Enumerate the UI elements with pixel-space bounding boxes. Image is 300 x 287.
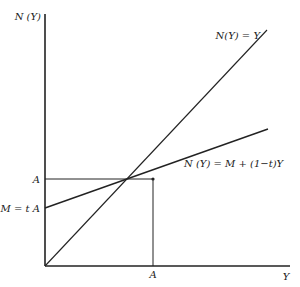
diagram-canvas: N (Y) Y A M = t A A N(Y) = Y N (Y) = M +… [0, 0, 300, 287]
y-tick-m: M = t A [0, 203, 40, 214]
x-axis-label: Y [283, 271, 291, 282]
label-n-equals-y: N(Y) = Y [215, 30, 262, 41]
y-axis-label: N (Y) [14, 11, 41, 22]
label-n-function: N (Y) = M + (1−t)Y [183, 158, 285, 169]
intersection-point [151, 177, 154, 180]
y-tick-a: A [32, 174, 40, 185]
line-n-equals-y [45, 30, 267, 266]
x-tick-a: A [148, 269, 156, 280]
